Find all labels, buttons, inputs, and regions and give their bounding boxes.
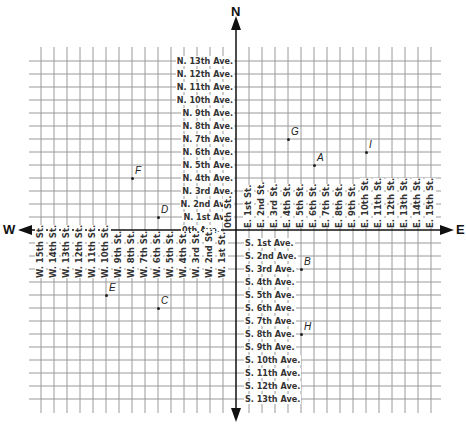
avenue-label: S. 2nd Ave.	[244, 251, 298, 261]
street-label: W. 1st St.	[217, 232, 228, 278]
avenue-label: S. 11th Ave.	[244, 368, 301, 378]
street-label: E. 3rd St.	[269, 183, 280, 228]
street-label: 0th St.	[223, 196, 234, 228]
west-arrow-icon	[18, 225, 32, 235]
street-label: W. 2nd St.	[204, 229, 215, 278]
avenue-label: N. 10th Ave.	[176, 95, 234, 105]
avenue-label: N. 13th Ave.	[176, 56, 234, 66]
point-label-e: E	[109, 282, 116, 293]
street-label: W. 11th St.	[87, 225, 98, 278]
street-label: W. 12th St.	[74, 225, 85, 278]
point-label-b: B	[304, 256, 311, 267]
point-marker	[105, 294, 108, 297]
street-label: W. 8th St.	[126, 231, 137, 278]
avenue-label: N. 7th Ave.	[181, 134, 234, 144]
street-label: W. 3rd St.	[191, 231, 202, 278]
avenue-label: S. 7th Ave.	[244, 316, 296, 326]
avenue-label: N. 6th Ave.	[181, 147, 234, 157]
point-marker	[157, 216, 160, 219]
avenue-label: S. 3rd Ave.	[244, 264, 296, 274]
point-label-c: C	[161, 295, 168, 306]
avenue-label: N. 11th Ave.	[176, 82, 234, 92]
point-marker	[287, 138, 290, 141]
street-label: E. 9th St.	[347, 184, 358, 228]
street-label: E. 7th St.	[321, 184, 332, 228]
avenue-label: N. 4th Ave.	[181, 173, 234, 183]
point-label-h: H	[304, 321, 311, 332]
point-marker	[300, 268, 303, 271]
avenue-label: S. 9th Ave.	[244, 342, 296, 352]
street-label: W. 9th St.	[113, 231, 124, 278]
street-label: E. 11th St.	[373, 178, 384, 228]
street-label: W. 4th St.	[178, 231, 189, 278]
street-label: E. 2nd St.	[256, 182, 267, 228]
avenue-label: S. 8th Ave.	[244, 329, 296, 339]
street-label: E. 13th St.	[399, 178, 410, 228]
street-label: E. 8th St.	[334, 184, 345, 228]
point-label-i: I	[369, 139, 372, 150]
street-label: E. 6th St.	[308, 184, 319, 228]
street-label: W. 13th St.	[61, 225, 72, 278]
street-label: E. 12th St.	[386, 178, 397, 228]
street-label: W. 6th St.	[152, 231, 163, 278]
avenue-label: S. 10th Ave.	[244, 355, 301, 365]
avenue-label: S. 6th Ave.	[244, 303, 296, 313]
north-label: N	[231, 4, 240, 19]
point-label-g: G	[291, 126, 299, 137]
point-marker	[131, 177, 134, 180]
point-label-d: D	[161, 204, 168, 215]
street-label: W. 14th St.	[48, 225, 59, 278]
east-arrow-icon	[440, 225, 454, 235]
street-label: E. 14th St.	[412, 178, 423, 228]
point-label-a: A	[317, 152, 324, 163]
street-label: E. 15th St.	[425, 178, 436, 228]
avenue-label: S. 12th Ave.	[244, 381, 301, 391]
point-marker	[157, 307, 160, 310]
point-marker	[300, 333, 303, 336]
street-label: E. 1st St.	[243, 185, 254, 228]
avenue-label: N. 9th Ave.	[181, 108, 234, 118]
east-label: E	[456, 222, 465, 237]
avenue-label: S. 4th Ave.	[244, 277, 296, 287]
city-grid-map: 0th Ave.N. 1st Ave.N. 2nd Ave.N. 3rd Ave…	[0, 0, 466, 430]
street-label: E. 10th St.	[360, 178, 371, 228]
point-label-f: F	[135, 165, 141, 176]
point-marker	[365, 151, 368, 154]
street-label: W. 10th St.	[100, 225, 111, 278]
avenue-label: N. 5th Ave.	[181, 160, 234, 170]
avenue-label: N. 3rd Ave.	[181, 186, 234, 196]
street-label: E. 4th St.	[282, 184, 293, 228]
avenue-label: N. 12th Ave.	[176, 69, 234, 79]
west-label: W	[3, 222, 15, 237]
avenue-label: N. 8th Ave.	[181, 121, 234, 131]
avenue-label: S. 13th Ave.	[244, 394, 301, 404]
street-label: E. 5th St.	[295, 184, 306, 228]
street-label: W. 7th St.	[139, 231, 150, 278]
avenue-label: S. 5th Ave.	[244, 290, 296, 300]
point-marker	[313, 164, 316, 167]
avenue-label: S. 1st Ave.	[244, 238, 295, 248]
street-label: W. 15th St.	[35, 225, 46, 278]
south-arrow-icon	[231, 408, 241, 422]
street-label: W. 5th St.	[165, 231, 176, 278]
